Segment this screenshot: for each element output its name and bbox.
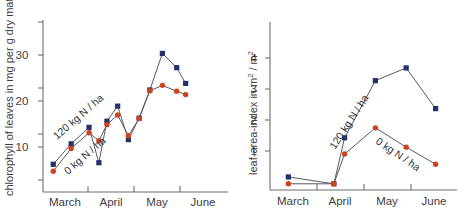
- x-ticklabel-march-right: March: [277, 195, 309, 207]
- data-point-marker: [403, 144, 408, 149]
- data-point-marker: [433, 106, 438, 111]
- chlorophyll-panel: chlorophyll of leaves in mg per g dry ma…: [0, 0, 232, 220]
- data-point-marker: [433, 162, 438, 167]
- data-point-marker: [86, 130, 91, 135]
- x-ticklabel-june-left: June: [191, 196, 216, 208]
- series-label-120kg-left: 120 kg N / ha: [50, 91, 105, 141]
- data-point-marker: [86, 125, 91, 130]
- data-point-marker: [286, 181, 291, 186]
- data-point-marker: [69, 141, 74, 146]
- data-point-marker: [373, 125, 378, 130]
- series-label-120kg-right: 120 kg N / ha: [327, 92, 371, 151]
- data-point-marker: [115, 112, 120, 117]
- y-ticklabel-10-left: 10: [16, 141, 29, 153]
- series-label-0kg-right: 0 kg N / ha: [374, 135, 423, 173]
- leaf-area-index-panel: leaf-area-index in m2 / m2 4 3 2 1 March…: [232, 0, 463, 220]
- y-ticklabel-4-right: 4: [251, 52, 258, 64]
- data-point-marker: [136, 116, 141, 121]
- data-point-marker: [183, 81, 188, 86]
- data-point-marker: [373, 78, 378, 83]
- y-axis-title-left: chlorophyll of leaves in mg per g dry ma…: [3, 0, 15, 196]
- data-point-marker: [183, 92, 188, 97]
- data-point-marker: [51, 162, 56, 167]
- y-ticklabel-2-right: 2: [251, 114, 257, 126]
- data-point-marker: [147, 88, 152, 93]
- data-point-marker: [115, 104, 120, 109]
- x-ticklabel-march-left: March: [49, 196, 81, 208]
- x-ticklabel-june-right: June: [422, 195, 447, 207]
- data-point-marker: [342, 151, 347, 156]
- x-ticklabel-april-right: April: [328, 195, 351, 207]
- data-point-marker: [104, 122, 109, 127]
- data-point-marker: [68, 146, 73, 151]
- x-ticklabel-april-left: April: [99, 196, 122, 208]
- data-point-marker: [160, 51, 165, 56]
- data-point-marker: [404, 65, 409, 70]
- x-ticklabel-may-right: May: [376, 195, 398, 207]
- y-ticklabel-3-right: 3: [251, 83, 257, 95]
- data-point-marker: [51, 169, 56, 174]
- data-point-marker: [286, 174, 291, 179]
- data-point-marker: [174, 88, 179, 93]
- data-point-marker: [126, 133, 131, 138]
- y-ticklabel-20-left: 20: [16, 95, 29, 107]
- data-point-marker: [96, 160, 101, 165]
- chlorophyll-plot: chlorophyll of leaves in mg per g dry ma…: [0, 0, 232, 220]
- data-point-marker: [174, 65, 179, 70]
- data-point-marker: [160, 83, 165, 88]
- x-ticklabel-may-left: May: [146, 196, 168, 208]
- data-point-marker: [331, 181, 336, 186]
- leaf-area-index-plot: leaf-area-index in m2 / m2 4 3 2 1 March…: [232, 0, 463, 220]
- y-ticklabel-30-left: 30: [16, 49, 29, 61]
- y-ticklabel-1-right: 1: [251, 145, 257, 157]
- two-panel-figure: chlorophyll of leaves in mg per g dry ma…: [0, 0, 463, 220]
